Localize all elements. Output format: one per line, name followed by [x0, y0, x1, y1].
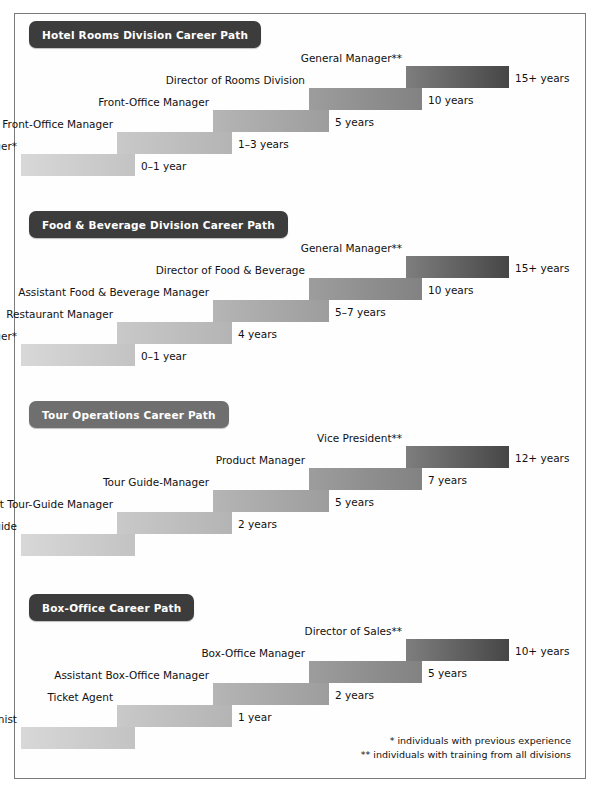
career-step-bar: [213, 300, 329, 322]
step-role-label: Ticket Agent: [48, 691, 113, 703]
footnotes-block: * individuals with previous experience**…: [361, 734, 571, 762]
step-role-label: Reservationist: [0, 713, 17, 725]
step-role-label: Box-Office Manager: [201, 647, 305, 659]
step-role-label: Assistant Front-Office Manager: [0, 118, 113, 130]
staircase-steps: Tour GuideAssistant Tour-Guide Manager2 …: [15, 446, 587, 586]
step-years-label: 10+ years: [515, 645, 569, 657]
career-step-bar: [21, 534, 135, 556]
career-step-bar: [117, 322, 232, 344]
chart-title-badge: Box-Office Career Path: [29, 594, 194, 621]
career-step-bar: [21, 344, 135, 366]
career-step-bar: [309, 468, 422, 490]
step-years-label: 2 years: [238, 518, 277, 530]
chart-title-badge: Food & Beverage Division Career Path: [29, 211, 288, 238]
step-role-label: Front-Office Manager: [98, 96, 209, 108]
step-years-label: 5 years: [428, 667, 467, 679]
page-canvas: Hotel Rooms Division Career PathFront De…: [0, 0, 600, 799]
step-years-label: 0–1 year: [141, 160, 186, 172]
step-role-label: Restaurant Manager: [6, 308, 113, 320]
footnote-line: * individuals with previous experience: [361, 734, 571, 748]
chart-title-text: Tour Operations Career Path: [42, 409, 216, 421]
step-years-label: 10 years: [428, 284, 474, 296]
career-step-bar: [213, 490, 329, 512]
step-role-label: Tour Guide-Manager: [103, 476, 209, 488]
step-years-label: 2 years: [335, 689, 374, 701]
career-step-bar: [117, 512, 232, 534]
footnote-line: ** individuals with training from all di…: [361, 748, 571, 762]
career-step-bar: [406, 639, 509, 661]
step-years-label: 7 years: [428, 474, 467, 486]
staircase-steps: Assistant Manager*0–1 yearRestaurant Man…: [15, 256, 587, 396]
step-years-label: 15+ years: [515, 262, 569, 274]
step-years-label: 1 year: [238, 711, 271, 723]
career-step-bar: [309, 661, 422, 683]
step-years-label: 15+ years: [515, 72, 569, 84]
career-step-bar: [309, 278, 422, 300]
step-years-label: 0–1 year: [141, 350, 186, 362]
step-years-label: 5 years: [335, 496, 374, 508]
step-role-label: Assistant Tour-Guide Manager: [0, 498, 113, 510]
step-years-label: 1–3 years: [238, 138, 289, 150]
chart-title-badge: Hotel Rooms Division Career Path: [29, 21, 261, 48]
step-role-label: Vice President**: [317, 432, 402, 444]
career-step-bar: [117, 132, 232, 154]
step-role-label: Assistant Manager*: [0, 330, 17, 342]
step-role-label: Director of Sales**: [305, 625, 402, 637]
career-step-bar: [406, 66, 509, 88]
step-role-label: Product Manager: [216, 454, 305, 466]
chart-title-text: Food & Beverage Division Career Path: [42, 219, 275, 231]
career-step-bar: [21, 727, 135, 749]
step-role-label: Assistant Food & Beverage Manager: [18, 286, 209, 298]
step-years-label: 5–7 years: [335, 306, 386, 318]
career-step-bar: [117, 705, 232, 727]
staircase-steps: Front Desk Manager*0–1 yearAssistant Fro…: [15, 66, 587, 206]
step-role-label: Front Desk Manager*: [0, 140, 17, 152]
career-step-bar: [406, 256, 509, 278]
chart-title-text: Box-Office Career Path: [42, 602, 181, 614]
step-role-label: General Manager**: [301, 242, 402, 254]
career-step-bar: [213, 110, 329, 132]
step-role-label: Assistant Box-Office Manager: [54, 669, 209, 681]
career-step-bar: [213, 683, 329, 705]
career-step-bar: [21, 154, 135, 176]
career-step-bar: [406, 446, 509, 468]
step-role-label: Director of Rooms Division: [166, 74, 305, 86]
step-years-label: 4 years: [238, 328, 277, 340]
step-role-label: Director of Food & Beverage: [156, 264, 305, 276]
chart-title-text: Hotel Rooms Division Career Path: [42, 29, 248, 41]
diagram-frame: Hotel Rooms Division Career PathFront De…: [14, 13, 586, 779]
step-years-label: 5 years: [335, 116, 374, 128]
step-years-label: 12+ years: [515, 452, 569, 464]
step-years-label: 10 years: [428, 94, 474, 106]
step-role-label: Tour Guide: [0, 520, 17, 532]
step-role-label: General Manager**: [301, 52, 402, 64]
chart-title-badge: Tour Operations Career Path: [29, 401, 229, 428]
career-step-bar: [309, 88, 422, 110]
